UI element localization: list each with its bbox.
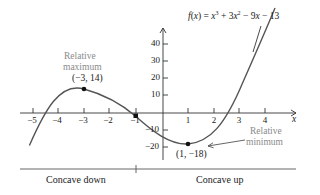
x-tick-label: 1 <box>186 116 191 125</box>
min-annotation-line2: minimum <box>246 138 283 148</box>
y-tick-label: 10 <box>140 90 160 99</box>
concave-down-label: Concave down <box>46 175 106 185</box>
x-tick-label: −5 <box>27 116 37 125</box>
x-tick-label: −1 <box>130 116 140 125</box>
eq-close: ) = <box>198 11 211 21</box>
y-tick-label: 30 <box>140 56 160 65</box>
relative-maximum-point <box>82 87 87 92</box>
eq-term4: − 13 <box>260 11 280 21</box>
y-tick-label: −10 <box>139 125 159 134</box>
x-tick-label: 2 <box>212 116 217 125</box>
eq-term3: − 9 <box>241 11 256 21</box>
max-annotation-line1: Relative <box>64 52 96 62</box>
x-tick-label: −4 <box>52 116 62 125</box>
min-coordinate-label: (1, −18) <box>176 150 207 160</box>
minimum-arrow-line <box>208 140 245 146</box>
x-tick-label: 4 <box>263 116 268 125</box>
y-tick-label: −20 <box>139 142 159 151</box>
eq-term2: + 3 <box>219 11 234 21</box>
x-axis-label: x <box>292 115 296 125</box>
relative-minimum-point <box>186 142 191 147</box>
y-tick-label: 40 <box>140 39 160 48</box>
concave-up-label: Concave up <box>196 175 244 185</box>
function-label: f(x) = x3 + 3x2 − 9x − 13 <box>188 10 279 21</box>
max-coordinate-label: (−3, 14) <box>72 74 103 84</box>
max-annotation-line2: maximum <box>63 63 102 73</box>
y-ticks <box>163 44 168 147</box>
x-tick-label: −3 <box>78 116 88 125</box>
x-tick-label: 3 <box>237 116 242 125</box>
equation-leader-line <box>253 26 261 52</box>
x-tick-label: −2 <box>103 116 113 125</box>
min-annotation-line1: Relative <box>250 127 282 137</box>
y-tick-label: 20 <box>140 73 160 82</box>
